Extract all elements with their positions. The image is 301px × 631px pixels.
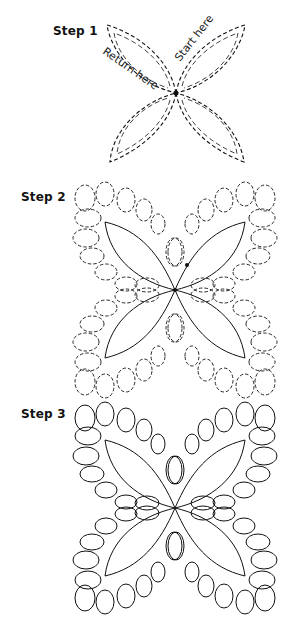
return-here-annotation: Return here <box>100 45 161 93</box>
step-2-diagram <box>0 180 301 400</box>
step-3-diagram <box>0 400 301 620</box>
step-1-diagram: Start here Return here <box>0 0 301 180</box>
cutoff-caption-text <box>60 623 300 631</box>
